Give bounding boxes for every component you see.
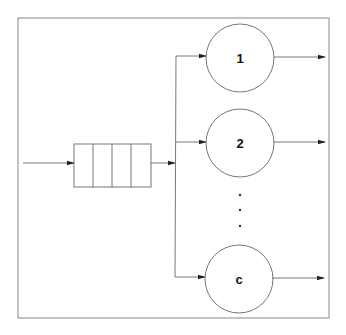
server-2: 2 <box>206 109 274 177</box>
server-label: 2 <box>236 136 243 151</box>
queue-buffer <box>74 144 151 187</box>
distribution-bus <box>175 56 176 277</box>
ellipsis-dot <box>239 194 241 196</box>
server-label: c <box>235 272 242 287</box>
ellipsis-dots <box>239 194 241 227</box>
server-label: 1 <box>236 51 243 66</box>
server-c: c <box>205 245 273 313</box>
ellipsis-dot <box>239 225 241 227</box>
system-boundary-frame <box>18 18 329 318</box>
ellipsis-dot <box>239 209 241 211</box>
server-1: 1 <box>206 24 274 92</box>
queueing-diagram: 1 2 c <box>0 0 346 335</box>
